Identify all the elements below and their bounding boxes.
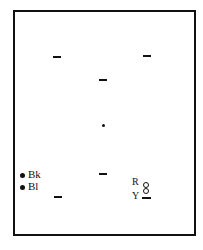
underline-mark [142, 197, 151, 199]
dash-mark [143, 55, 151, 57]
label-red: R [132, 176, 139, 187]
label-blue: Bl [28, 181, 38, 192]
blue-dot-icon [20, 185, 25, 190]
dash-mark [99, 79, 107, 81]
dash-mark [99, 173, 107, 175]
black-dot-icon [20, 173, 25, 178]
label-black: Bk [28, 169, 41, 180]
diagram-frame [13, 10, 196, 236]
dash-mark [54, 196, 62, 198]
label-yellow: Y [132, 190, 139, 201]
yellow-ring-icon [143, 188, 149, 194]
dash-mark [53, 56, 61, 58]
dot-mark [102, 124, 105, 127]
